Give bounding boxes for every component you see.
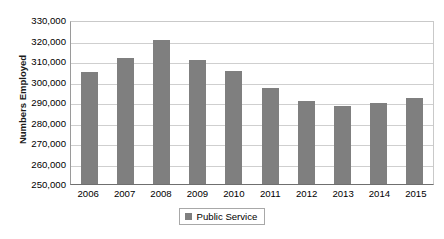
bar-slot [288,22,324,184]
bar-2009[interactable] [189,60,206,184]
bar-slot [397,22,433,184]
x-tick-label: 2009 [179,188,215,199]
x-tick-label: 2007 [106,188,142,199]
x-tick-label: 2015 [398,188,434,199]
x-tick-label: 2012 [288,188,324,199]
x-tick-label: 2011 [252,188,288,199]
bar-slot [180,22,216,184]
bar-slot [107,22,143,184]
bar-slot [71,22,107,184]
bar-2015[interactable] [406,98,423,184]
bar-2006[interactable] [81,72,98,184]
x-tick-label: 2014 [361,188,397,199]
bar-chart: Numbers Employed 330,000320,000310,00030… [0,0,444,239]
bar-2008[interactable] [153,40,170,184]
legend-label-public-service: Public Service [197,211,258,222]
y-tick-label: 310,000 [14,57,66,67]
x-axis-tick-labels: 2006200720082009201020112012201320142015 [70,188,434,199]
plot-area [70,21,434,185]
bar-slot [361,22,397,184]
y-tick-label: 300,000 [14,78,66,88]
bar-slot [252,22,288,184]
y-tick-label: 250,000 [14,180,66,190]
bar-slot [216,22,252,184]
bar-2014[interactable] [370,103,387,184]
bar-2011[interactable] [262,88,279,184]
bar-2013[interactable] [334,106,351,184]
y-tick-label: 260,000 [14,160,66,170]
bar-2010[interactable] [225,71,242,184]
legend-box: Public Service [179,208,266,225]
bar-slot [324,22,360,184]
bars-layer [71,22,433,184]
y-axis-tick-labels: 330,000320,000310,000300,000290,000280,0… [14,0,66,239]
x-tick-label: 2010 [216,188,252,199]
y-tick-label: 280,000 [14,119,66,129]
y-tick-label: 320,000 [14,37,66,47]
x-tick-label: 2006 [70,188,106,199]
y-tick-label: 290,000 [14,98,66,108]
legend-swatch-public-service [185,213,192,220]
chart-legend: Public Service [0,208,444,225]
bar-2012[interactable] [298,101,315,184]
bar-2007[interactable] [117,58,134,184]
bar-slot [143,22,179,184]
y-tick-label: 270,000 [14,139,66,149]
x-tick-label: 2013 [325,188,361,199]
y-tick-label: 330,000 [14,16,66,26]
x-tick-label: 2008 [143,188,179,199]
